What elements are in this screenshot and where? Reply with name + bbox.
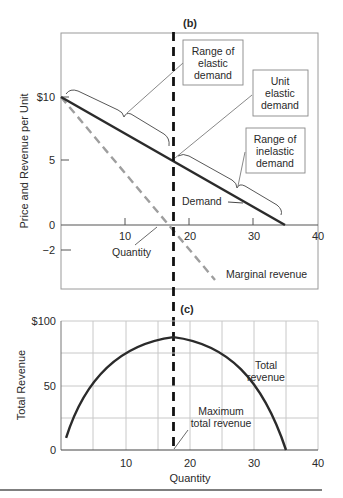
y-label-10: $10 xyxy=(37,91,55,103)
total-revenue-label-2: revenue xyxy=(247,371,285,383)
panel-c-label: (c) xyxy=(180,303,194,315)
max-revenue-leader-line xyxy=(174,430,188,449)
y-label-100: $100 xyxy=(32,315,56,327)
y-label-minus2: −2 xyxy=(42,244,55,256)
elasticity-figure: $10 5 0 −2 10 20 30 40 (b) Price and Rev… xyxy=(0,0,343,498)
inelastic-text-2: inelastic xyxy=(256,145,294,157)
max-revenue-label-2: total revenue xyxy=(191,417,252,429)
y-label-0: 0 xyxy=(49,219,55,231)
demand-label: Demand xyxy=(182,195,222,207)
y-label-5: 5 xyxy=(49,154,55,166)
x-label-30-top: 30 xyxy=(248,230,260,242)
x-label-20-bottom: 20 xyxy=(184,457,196,469)
x-label-10-bottom: 10 xyxy=(120,457,132,469)
y-label-0-bottom: 0 xyxy=(50,444,56,456)
max-revenue-label-1: Maximum xyxy=(198,405,244,417)
marginal-revenue-label: Marginal revenue xyxy=(226,268,307,280)
inelastic-text-3: demand xyxy=(256,157,294,169)
x-label-40-top: 40 xyxy=(312,230,324,242)
y-axis-title-top: Price and Revenue per Unit xyxy=(18,93,30,228)
y-axis-title-bottom: Total Revenue xyxy=(15,350,27,420)
inelastic-text-1: Range of xyxy=(254,133,297,145)
elastic-text-1: Range of xyxy=(192,45,235,57)
unit-elastic-text-2: elastic xyxy=(265,87,295,99)
quantity-label-top: Quantity xyxy=(112,246,152,258)
elastic-text-2: elastic xyxy=(198,57,228,69)
x-label-20-top: 20 xyxy=(184,230,196,242)
elastic-text-3: demand xyxy=(194,69,232,81)
elastic-range-brace xyxy=(66,90,169,146)
quantity-leader-line xyxy=(135,227,157,245)
y-label-50: 50 xyxy=(44,380,56,392)
x-label-30-bottom: 30 xyxy=(248,457,260,469)
panel-b: $10 5 0 −2 10 20 30 40 (b) Price and Rev… xyxy=(18,17,324,289)
demand-leader-line xyxy=(228,202,243,203)
unit-elastic-leader-line xyxy=(175,95,252,158)
x-axis-title-bottom: Quantity xyxy=(170,472,211,484)
unit-elastic-text-3: demand xyxy=(261,99,299,111)
unit-elastic-text-1: Unit xyxy=(271,75,290,87)
total-revenue-label-1: Total xyxy=(255,359,277,371)
inelastic-leader-line xyxy=(238,152,245,186)
x-label-10-top: 10 xyxy=(119,230,131,242)
x-label-40-bottom: 40 xyxy=(312,457,324,469)
total-revenue-curve xyxy=(66,337,286,450)
panel-c: $100 50 0 10 20 30 40 Quantity (c) Total… xyxy=(15,303,324,484)
panel-b-label: (b) xyxy=(183,17,197,29)
